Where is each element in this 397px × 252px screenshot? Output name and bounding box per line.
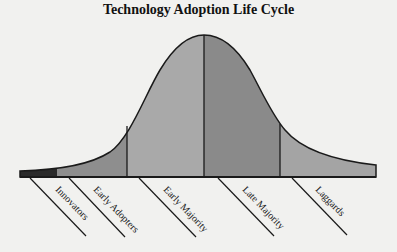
label-laggards: Laggards: [314, 184, 348, 218]
label-late-majority: Late Majority: [241, 184, 287, 231]
segment-innovators: [20, 20, 57, 180]
label-innovators: Innovators: [54, 184, 92, 222]
adoption-curve-diagram: Innovators Early Adopters Early Majority…: [0, 0, 397, 252]
segment-early-majority: [127, 20, 204, 180]
segment-early-adopters: [57, 20, 127, 180]
segment-late-majority: [204, 20, 280, 180]
